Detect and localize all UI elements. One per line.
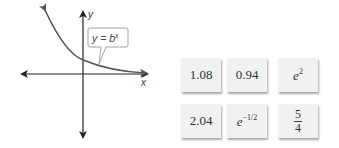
card-value: 0.94 — [236, 67, 259, 83]
y-axis-label: y — [87, 9, 94, 20]
x-axis-label: x — [140, 77, 147, 88]
svg-text:y = bx: y = bx — [91, 32, 119, 44]
callout-equation: y = b — [91, 32, 115, 44]
card-value: e−1/2 — [237, 113, 258, 130]
equation-callout: y = bx — [88, 28, 128, 64]
value-card-6[interactable]: 5 4 — [278, 104, 318, 138]
value-card-4[interactable]: 2.04 — [181, 104, 221, 138]
card-value: 2.04 — [190, 113, 213, 129]
value-card-1[interactable]: 1.08 — [181, 58, 221, 92]
value-card-5[interactable]: e−1/2 — [227, 104, 267, 138]
value-card-2[interactable]: 0.94 — [227, 58, 267, 92]
exponential-graph: y x y = bx — [0, 0, 170, 148]
card-value: 1.08 — [190, 67, 213, 83]
card-value: e2 — [293, 67, 303, 84]
card-fraction: 5 4 — [294, 109, 302, 134]
callout-exponent: x — [114, 32, 119, 39]
value-card-3[interactable]: e2 — [278, 58, 318, 92]
